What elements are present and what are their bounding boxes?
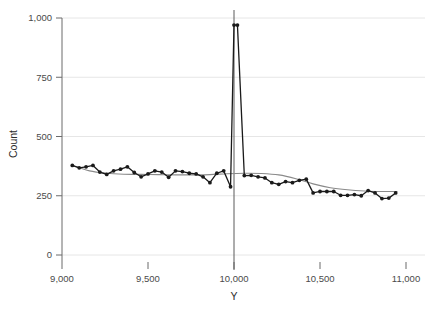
data-point (277, 182, 281, 186)
data-point (325, 190, 329, 194)
data-point (146, 172, 150, 176)
data-point (346, 193, 350, 197)
data-point (139, 175, 143, 179)
data-point (201, 175, 205, 179)
y-axis-title: Count (7, 130, 19, 158)
x-tick-label: 9,500 (136, 273, 160, 284)
x-tick-label: 10,500 (305, 273, 334, 284)
x-tick-label: 11,000 (392, 273, 420, 284)
data-point (373, 191, 377, 195)
data-point (387, 196, 391, 200)
data-point (318, 190, 322, 194)
data-point (174, 169, 178, 173)
data-point (236, 23, 240, 27)
data-point (194, 172, 198, 176)
data-point (311, 191, 315, 195)
data-point (208, 181, 212, 185)
data-point (284, 180, 288, 184)
data-point (125, 165, 129, 169)
x-tick-label: 9,000 (50, 273, 74, 284)
gridlines (62, 18, 425, 255)
data-point (332, 190, 336, 194)
data-point (339, 193, 343, 197)
data-point (291, 181, 295, 185)
x-axis-title: Y (230, 290, 237, 302)
x-axis-ticks: 9,0009,50010,00010,50011,000 (50, 262, 420, 284)
data-point (232, 23, 236, 27)
y-tick-label: 0 (47, 249, 52, 260)
data-point (256, 175, 260, 179)
data-point (132, 171, 136, 175)
data-point (353, 193, 357, 197)
data-point (153, 169, 157, 173)
data-point (98, 170, 102, 174)
data-point (270, 181, 274, 185)
data-point (359, 194, 363, 198)
data-point (84, 165, 88, 169)
y-tick-label: 250 (36, 190, 52, 201)
data-point (297, 178, 301, 182)
data-point (215, 171, 219, 175)
x-tick-label: 10,000 (219, 273, 248, 284)
data-point (366, 189, 370, 193)
data-point (91, 164, 95, 168)
data-point (263, 176, 267, 180)
data-point (112, 169, 116, 173)
data-point (242, 174, 246, 178)
data-point (222, 169, 226, 173)
y-tick-label: 1,000 (28, 12, 52, 23)
data-point (380, 197, 384, 201)
data-point (187, 171, 191, 175)
y-tick-label: 750 (36, 72, 52, 83)
chart-container: 02505007501,000 9,0009,50010,00010,50011… (0, 0, 431, 314)
data-point (181, 170, 185, 174)
y-axis-ticks: 02505007501,000 (28, 12, 62, 260)
data-point (229, 185, 233, 189)
data-point (167, 175, 171, 179)
data-point (160, 170, 164, 174)
data-point (77, 166, 81, 170)
data-point (119, 167, 123, 171)
count-vs-y-line-chart: 02505007501,000 9,0009,50010,00010,50011… (0, 0, 431, 314)
data-point (249, 173, 253, 177)
data-point (70, 164, 74, 168)
data-point (304, 177, 308, 181)
data-point (394, 191, 398, 195)
y-tick-label: 500 (36, 131, 52, 142)
data-point (105, 173, 109, 177)
